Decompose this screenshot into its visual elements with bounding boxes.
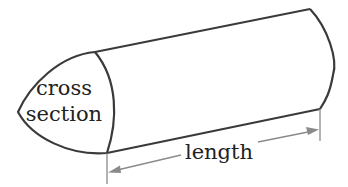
dimension-line-right [258, 131, 313, 142]
cross-section-label-line2: section [26, 102, 102, 126]
diagram-canvas: cross section length [0, 0, 348, 187]
cross-section-label-line1: cross [36, 76, 92, 100]
top-edge [95, 9, 310, 52]
arrowhead-left-icon [108, 166, 121, 174]
arrowhead-right-icon [306, 127, 319, 135]
dimension-line-left [113, 155, 181, 171]
length-label: length [185, 140, 253, 164]
prism-diagram: cross section length [0, 0, 348, 187]
right-end-curve [310, 9, 334, 109]
